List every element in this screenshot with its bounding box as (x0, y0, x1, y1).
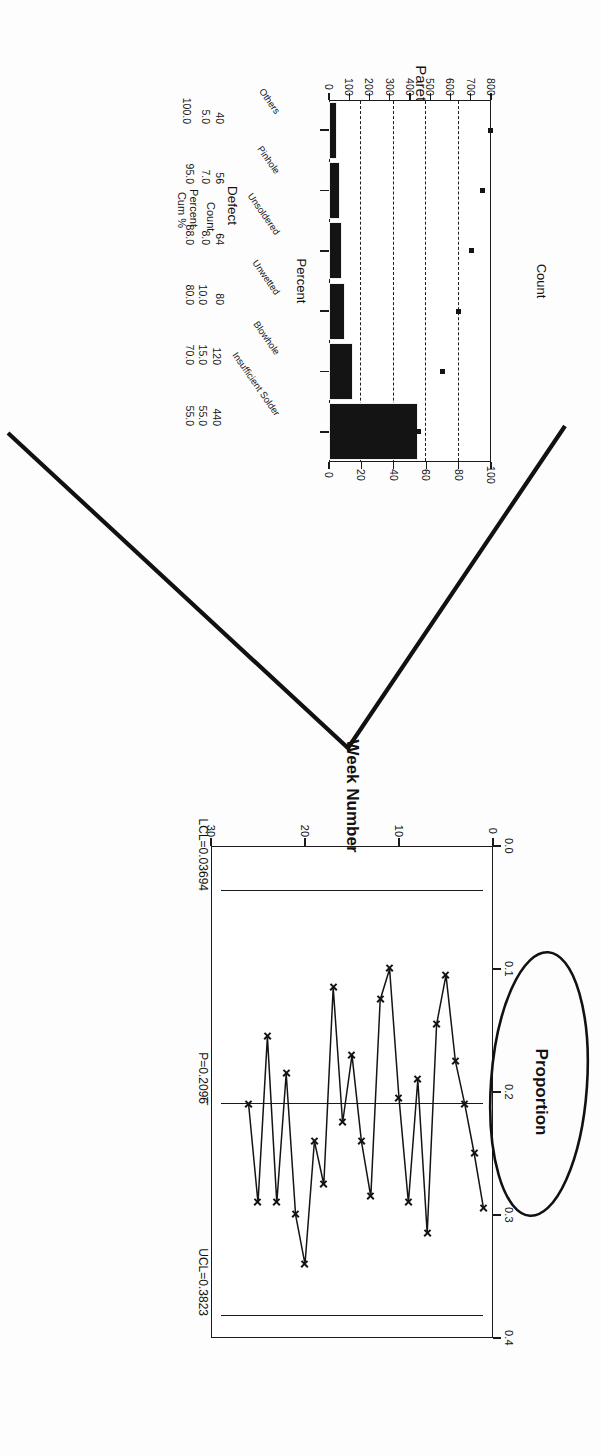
p-chart-x-tick (304, 838, 305, 846)
p-chart-point (244, 1100, 253, 1109)
p-chart-point (254, 1198, 263, 1207)
pareto-category-label: Others (257, 86, 282, 116)
pareto-percent-tick-label: 80 (453, 469, 465, 481)
p-chart-point (432, 1020, 441, 1029)
p-chart-point (310, 1137, 319, 1146)
pareto-table-header-cum: Cum % (176, 192, 188, 228)
pareto-category-tick (320, 250, 329, 251)
p-chart-point (385, 965, 394, 974)
pareto-cell-percent: 15.0 (197, 345, 209, 365)
p-chart-x-tick-label: 20 (299, 825, 311, 838)
rotated-sheet: UCL=0.3823 _ P=0.2096 LCL=0.03694 010203… (0, 0, 601, 1456)
pareto-category-label: Pinhole (255, 144, 282, 176)
pareto-category-tick (320, 431, 329, 432)
pareto-cell-cum: 95.0 (184, 164, 196, 184)
p-chart-y-tick (493, 1091, 501, 1092)
p-chart-x-axis-title: Week Number (342, 739, 362, 852)
pareto-cell-percent: 5.0 (200, 110, 212, 125)
p-chart-y-tick (493, 968, 501, 969)
pareto-cell-cum: 100.0 (181, 98, 193, 124)
pareto-cell-count: 40 (214, 112, 226, 124)
pareto-category-tick (320, 190, 329, 191)
pareto-percent-tick (361, 462, 362, 469)
p-chart-point (451, 1057, 460, 1066)
ucl-line (221, 1315, 483, 1316)
p-chart-y-tick-label: 0.4 (503, 1330, 515, 1346)
pareto-count-tick-label: 500 (424, 78, 436, 96)
p-chart-point (357, 1137, 366, 1146)
pareto-cell-percent: 8.0 (200, 230, 212, 245)
pareto-cell-count: 120 (211, 348, 223, 366)
pareto-percent-tick (393, 462, 394, 469)
p-chart-x-tick (210, 838, 211, 846)
pareto-category-label: Unwetted (250, 258, 282, 297)
p-chart-x-tick (398, 838, 399, 846)
pareto-cumulative-point (416, 429, 421, 434)
pareto-cell-cum: 55.0 (184, 405, 196, 425)
pareto-gridline (425, 101, 426, 461)
p-chart-point (423, 1229, 432, 1238)
center-label: P=0.2096 (196, 1052, 210, 1104)
pareto-percent-tick-label: 60 (420, 469, 432, 481)
p-chart-plot-frame (211, 846, 493, 1338)
pareto-table-header-percent: Percent (188, 189, 200, 227)
pareto-percent-tick-label: 100 (485, 466, 497, 484)
p-chart-point (460, 1100, 469, 1109)
pareto-cumulative-line (0, 0, 601, 728)
pareto-cell-percent: 7.0 (200, 170, 212, 185)
pareto-cell-count: 56 (214, 173, 226, 185)
p-chart-point (442, 971, 451, 980)
pareto-cell-count: 64 (214, 233, 226, 245)
p-chart-point (413, 1075, 422, 1084)
pareto-cumulative-point (456, 309, 461, 314)
ucl-label: UCL=0.3823 (196, 1249, 210, 1317)
pareto-bar (329, 102, 337, 159)
p-chart-y-tick (493, 1214, 501, 1215)
pareto-cumulative-point (440, 369, 445, 374)
pareto-cell-cum: 80.0 (184, 285, 196, 305)
p-chart-point (395, 1094, 404, 1103)
pareto-bar (329, 343, 353, 400)
p-chart-y-tick-label: 0.0 (503, 838, 515, 854)
pareto-cell-cum: 70.0 (184, 345, 196, 365)
pareto-cell-percent: 55.0 (197, 405, 209, 425)
pareto-count-tick-label: 200 (364, 78, 376, 96)
p-chart-point (376, 995, 385, 1004)
p-chart-point (282, 1069, 291, 1078)
pareto-category-tick (320, 129, 329, 130)
p-chart-point (348, 1051, 357, 1060)
p-chart-x-tick-label: 10 (393, 825, 405, 838)
pareto-count-tick (328, 93, 329, 100)
pareto-cell-count: 80 (214, 293, 226, 305)
pareto-cell-percent: 10.0 (197, 285, 209, 305)
pareto-count-tick-label: 400 (404, 78, 416, 96)
p-chart-panel: UCL=0.3823 _ P=0.2096 LCL=0.03694 010203… (0, 728, 601, 1456)
pareto-cumulative-point (480, 188, 485, 193)
p-chart-point (263, 1032, 272, 1041)
pareto-count-tick-label: 0 (323, 84, 335, 90)
p-chart-x-tick-label: 30 (205, 825, 217, 838)
p-chart-point (272, 1198, 281, 1207)
p-chart-y-tick (493, 1337, 501, 1338)
p-chart-y-tick-label: 0.2 (503, 1084, 515, 1100)
pareto-count-tick-label: 100 (343, 78, 355, 96)
pareto-count-tick-label: 700 (465, 78, 477, 96)
p-chart-point (338, 1118, 347, 1127)
p-chart-point (291, 1211, 300, 1220)
pareto-percent-tick-label: 0 (323, 472, 335, 478)
p-chart-point (470, 1149, 479, 1158)
pareto-chart-panel: Pareto Chart of Solder Defects 010020030… (0, 0, 601, 728)
pareto-percent-tick-label: 20 (355, 469, 367, 481)
p-chart-y-tick-label: 0.1 (503, 961, 515, 977)
p-chart-y-axis-title: Proportion (531, 1049, 551, 1136)
pareto-percent-tick (458, 462, 459, 469)
pareto-bar (329, 222, 342, 279)
pareto-table-header-defect: Defect (225, 186, 240, 225)
p-chart-point (479, 1204, 488, 1213)
pareto-percent-tick-label: 40 (388, 469, 400, 481)
pareto-percent-tick (426, 462, 427, 469)
p-chart-point (301, 1260, 310, 1269)
p-chart-point (329, 983, 338, 992)
pareto-cumulative-point (469, 248, 474, 253)
p-chart-point (319, 1180, 328, 1189)
